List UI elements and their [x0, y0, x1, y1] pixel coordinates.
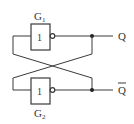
- g2-inversion-bubble: [50, 88, 55, 93]
- gate-g1-symbol: 1: [37, 32, 42, 43]
- gate-g2-symbol: 1: [37, 86, 42, 97]
- qbar-junction-dot: [90, 88, 94, 92]
- output-q-label: Q: [118, 30, 126, 42]
- g1-input-wire: [13, 36, 92, 90]
- g1-inversion-bubble: [50, 34, 55, 39]
- cross-wire-q-to-g2: [13, 36, 92, 90]
- gate-g2-label: G2: [34, 107, 46, 121]
- output-qbar-label: Q: [118, 84, 126, 96]
- gate-g1-label: G1: [34, 10, 46, 24]
- cross-coupled-inverter-latch: G1 1 1 G2 Q Q: [0, 0, 134, 124]
